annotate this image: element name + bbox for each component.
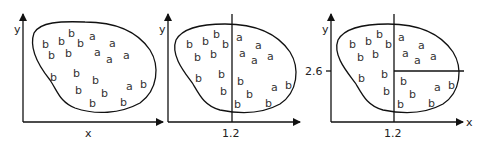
data-points: bbbb aa bbaaa bbb bbab bb (42, 27, 147, 110)
decision-tree-partition-diagram: y x bbbb aa bbaaa bbb bbab bb y 1.2 bbbb… (0, 0, 485, 146)
svg-text:a: a (106, 53, 113, 66)
svg-text:b: b (428, 97, 435, 110)
svg-text:b: b (73, 67, 80, 80)
svg-text:a: a (434, 81, 441, 94)
svg-text:b: b (448, 79, 455, 92)
svg-text:a: a (126, 80, 133, 93)
x-axis-label: x (466, 116, 473, 129)
svg-text:b: b (50, 71, 57, 84)
svg-text:b: b (194, 51, 201, 64)
svg-text:a: a (402, 47, 409, 60)
svg-text:a: a (123, 49, 130, 62)
svg-text:a: a (255, 39, 262, 52)
svg-text:a: a (109, 37, 116, 50)
svg-text:b: b (376, 28, 383, 41)
svg-text:b: b (58, 35, 65, 48)
svg-text:b: b (68, 27, 75, 40)
svg-text:a: a (94, 46, 101, 59)
svg-text:b: b (237, 75, 244, 88)
svg-text:b: b (349, 38, 356, 51)
svg-text:a: a (418, 39, 425, 52)
svg-text:b: b (381, 68, 388, 81)
x-tick-label: 1.2 (384, 127, 402, 140)
svg-text:b: b (120, 96, 127, 109)
svg-text:b: b (365, 35, 372, 48)
y-axis-label: y (159, 23, 166, 36)
svg-text:b: b (222, 38, 229, 51)
svg-text:b: b (213, 28, 220, 41)
svg-text:b: b (210, 48, 217, 61)
svg-text:b: b (140, 78, 147, 91)
svg-text:b: b (48, 49, 55, 62)
svg-text:b: b (409, 88, 416, 101)
svg-text:a: a (398, 31, 405, 44)
svg-text:b: b (77, 37, 84, 50)
y-tick-label: 2.6 (305, 65, 323, 78)
svg-text:a: a (251, 54, 258, 67)
svg-text:b: b (372, 48, 379, 61)
svg-text:b: b (397, 98, 404, 111)
panel-2: y 1.2 bbbb aa bbaaa bbb bbab bb (159, 14, 300, 140)
svg-text:a: a (267, 50, 274, 63)
svg-text:a: a (89, 30, 96, 43)
svg-text:b: b (383, 85, 390, 98)
panel-1: y x bbbb aa bbaaa bbb bbab bb (14, 14, 163, 140)
svg-text:b: b (246, 88, 253, 101)
svg-text:a: a (271, 81, 278, 94)
svg-text:b: b (385, 38, 392, 51)
svg-text:b: b (89, 97, 96, 110)
svg-text:a: a (414, 54, 421, 67)
x-tick-label: 1.2 (222, 127, 240, 140)
panel-3: y x 2.6 1.2 bbbb aa bbaaa bbb bbab bb (305, 14, 473, 140)
svg-text:a: a (430, 50, 437, 63)
svg-text:b: b (357, 51, 364, 64)
y-axis-label: y (14, 23, 21, 36)
svg-text:a: a (236, 31, 243, 44)
svg-text:b: b (202, 35, 209, 48)
svg-text:b: b (101, 87, 108, 100)
svg-text:b: b (92, 74, 99, 87)
svg-text:b: b (220, 85, 227, 98)
svg-text:b: b (265, 97, 272, 110)
svg-text:b: b (186, 38, 193, 51)
svg-text:b: b (285, 79, 292, 92)
svg-text:b: b (195, 72, 202, 85)
svg-text:b: b (75, 84, 82, 97)
svg-text:b: b (400, 75, 407, 88)
svg-text:b: b (218, 68, 225, 81)
svg-text:a: a (239, 47, 246, 60)
x-axis-label: x (85, 127, 92, 140)
svg-text:b: b (358, 72, 365, 85)
y-axis-label: y (322, 23, 329, 36)
svg-text:b: b (234, 98, 241, 111)
svg-text:b: b (65, 47, 72, 60)
